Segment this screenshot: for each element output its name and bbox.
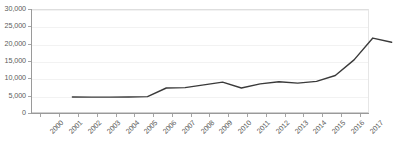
y-axis-line xyxy=(31,9,32,114)
y-axis-tick-label: 0 xyxy=(22,109,26,116)
series-line xyxy=(63,19,397,123)
x-axis-tick-mark xyxy=(247,114,248,117)
y-axis-tick-label: 20,000 xyxy=(5,40,26,47)
x-axis-tick-mark xyxy=(266,114,267,117)
y-axis-tick-label: 5,000 xyxy=(9,92,27,99)
x-axis-tick-label: 2000 xyxy=(49,119,65,135)
y-axis-tick-labels: 05,00010,00015,00020,00025,00030,000 xyxy=(0,0,31,152)
x-axis-tick-mark xyxy=(360,114,361,117)
x-axis-tick-mark xyxy=(303,114,304,117)
x-axis-tick-mark xyxy=(59,114,60,117)
gridline xyxy=(32,10,368,11)
x-axis-tick-mark xyxy=(172,114,173,117)
y-axis-tick-label: 15,000 xyxy=(5,57,26,64)
x-axis-line xyxy=(31,113,369,114)
y-axis-tick-label: 30,000 xyxy=(5,5,26,12)
x-axis-tick-mark xyxy=(191,114,192,117)
x-axis-tick-mark xyxy=(341,114,342,117)
y-axis-tick-label: 10,000 xyxy=(5,74,26,81)
series-polyline xyxy=(72,38,391,97)
x-axis-tick-mark xyxy=(153,114,154,117)
plot-area xyxy=(31,9,369,113)
x-axis-tick-mark xyxy=(322,114,323,117)
x-axis-tick-mark xyxy=(134,114,135,117)
x-axis-tick-mark xyxy=(40,114,41,117)
x-axis-tick-mark xyxy=(97,114,98,117)
x-axis-tick-mark xyxy=(78,114,79,117)
x-axis-tick-mark xyxy=(209,114,210,117)
y-axis-tick-label: 25,000 xyxy=(5,22,26,29)
x-axis-tick-mark xyxy=(228,114,229,117)
